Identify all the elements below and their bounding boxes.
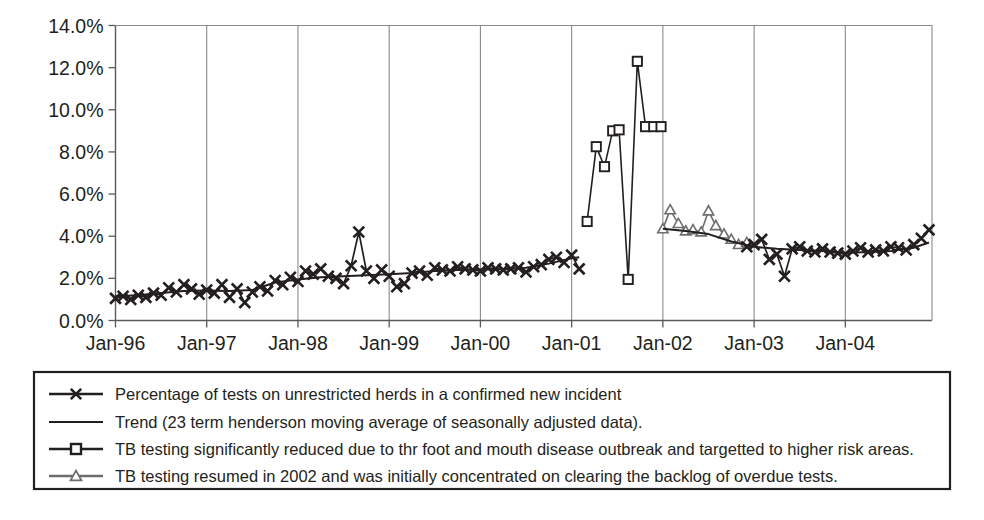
data-point-marker-square [583, 217, 592, 226]
x-tick-label: Jan-01 [542, 332, 602, 354]
x-tick-label: Jan-98 [268, 332, 328, 354]
legend-entry: Trend (23 term henderson moving average … [49, 413, 643, 431]
x-axis-tick-labels: Jan-96Jan-97Jan-98Jan-99Jan-00Jan-01Jan-… [86, 332, 876, 354]
y-tick-label: 4.0% [59, 225, 103, 247]
legend-label: Percentage of tests on unrestricted herd… [115, 385, 622, 403]
y-tick-label: 14.0% [48, 15, 103, 37]
x-tick-label: Jan-03 [724, 332, 784, 354]
legend-label: Trend (23 term henderson moving average … [115, 413, 643, 431]
x-tick-label: Jan-99 [359, 332, 419, 354]
chart-figure: 0.0%2.0%4.0%6.0%8.0%10.0%12.0%14.0% Jan-… [0, 0, 984, 520]
y-tick-label: 2.0% [59, 267, 103, 289]
legend-entry: TB testing significantly reduced due to … [49, 440, 914, 458]
x-tick-label: Jan-97 [177, 332, 237, 354]
legend-label: TB testing resumed in 2002 and was initi… [115, 467, 838, 485]
legend-label: TB testing significantly reduced due to … [115, 440, 914, 458]
x-tick-label: Jan-96 [86, 332, 146, 354]
data-point-marker-square [633, 57, 642, 66]
legend-entry: TB testing resumed in 2002 and was initi… [49, 467, 838, 485]
y-tick-label: 10.0% [48, 99, 103, 121]
legend-marker-square-icon [71, 444, 81, 454]
x-tick-label: Jan-04 [816, 332, 876, 354]
y-tick-label: 12.0% [48, 57, 103, 79]
y-tick-label: 6.0% [59, 183, 103, 205]
data-point-marker-square [656, 122, 665, 131]
x-tick-label: Jan-00 [451, 332, 511, 354]
data-point-marker-square [624, 275, 633, 284]
data-point-marker-square [600, 162, 609, 171]
x-tick-label: Jan-02 [633, 332, 693, 354]
y-tick-label: 8.0% [59, 141, 103, 163]
y-tick-label: 0.0% [59, 310, 103, 332]
data-point-marker-square [592, 142, 601, 151]
legend-entry: Percentage of tests on unrestricted herd… [49, 385, 622, 403]
data-point-marker-square [614, 125, 623, 134]
